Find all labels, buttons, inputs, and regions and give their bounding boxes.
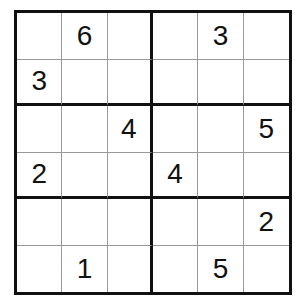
sudoku-cell-r5-c4[interactable] — [153, 199, 198, 246]
sudoku-cell-r1-c1[interactable] — [17, 13, 62, 60]
sudoku-cell-r5-c6[interactable]: 2 — [244, 199, 289, 246]
sudoku-cell-r5-c3[interactable] — [108, 199, 153, 246]
sudoku-cell-r5-c2[interactable] — [62, 199, 107, 246]
sudoku-cell-r2-c1[interactable]: 3 — [17, 60, 62, 107]
sudoku-cell-r3-c5[interactable] — [198, 106, 243, 153]
sudoku-cell-r6-c4[interactable] — [153, 246, 198, 293]
sudoku-cell-r2-c6[interactable] — [244, 60, 289, 107]
sudoku-cell-r6-c5[interactable]: 5 — [198, 246, 243, 293]
sudoku-cell-r4-c1[interactable]: 2 — [17, 153, 62, 200]
sudoku-cell-r6-c1[interactable] — [17, 246, 62, 293]
sudoku-board: 6334524215 — [14, 10, 292, 295]
sudoku-cell-r1-c3[interactable] — [108, 13, 153, 60]
sudoku-cell-r3-c4[interactable] — [153, 106, 198, 153]
sudoku-cell-r4-c2[interactable] — [62, 153, 107, 200]
sudoku-cell-r4-c4[interactable]: 4 — [153, 153, 198, 200]
sudoku-cell-r2-c4[interactable] — [153, 60, 198, 107]
sudoku-cell-r4-c6[interactable] — [244, 153, 289, 200]
sudoku-cell-r1-c6[interactable] — [244, 13, 289, 60]
sudoku-cell-r3-c3[interactable]: 4 — [108, 106, 153, 153]
sudoku-cell-r5-c5[interactable] — [198, 199, 243, 246]
sudoku-cell-r5-c1[interactable] — [17, 199, 62, 246]
sudoku-cell-r2-c2[interactable] — [62, 60, 107, 107]
sudoku-cell-r1-c5[interactable]: 3 — [198, 13, 243, 60]
sudoku-cell-r6-c3[interactable] — [108, 246, 153, 293]
sudoku-cell-r1-c4[interactable] — [153, 13, 198, 60]
sudoku-cell-r2-c3[interactable] — [108, 60, 153, 107]
sudoku-cell-r2-c5[interactable] — [198, 60, 243, 107]
sudoku-cell-r6-c2[interactable]: 1 — [62, 246, 107, 293]
sudoku-cell-r4-c3[interactable] — [108, 153, 153, 200]
sudoku-cell-r3-c6[interactable]: 5 — [244, 106, 289, 153]
sudoku-cell-r6-c6[interactable] — [244, 246, 289, 293]
sudoku-cell-r1-c2[interactable]: 6 — [62, 13, 107, 60]
sudoku-cell-r3-c2[interactable] — [62, 106, 107, 153]
sudoku-cell-r4-c5[interactable] — [198, 153, 243, 200]
sudoku-cell-r3-c1[interactable] — [17, 106, 62, 153]
